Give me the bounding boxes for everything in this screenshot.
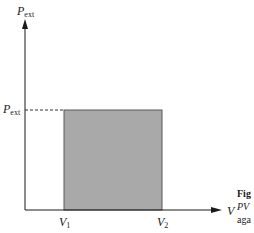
x-tick-label-v2: V2 [157,216,168,230]
x-tick-v1-subscript: 1 [66,221,70,230]
caption-line-1: Fig [237,188,251,200]
x-tick-label-v1: V1 [59,216,70,230]
caption-line-3: aga [237,214,251,226]
y-axis-label: Pext [17,5,34,19]
x-tick-v2-subscript: 2 [164,221,168,230]
y-tick-subscript: ext [10,108,20,117]
x-axis-symbol: V [227,204,234,218]
y-axis-subscript: ext [24,10,34,19]
x-axis-label: V [227,205,234,217]
y-axis-arrow-icon [22,19,28,29]
x-axis-arrow-icon [211,207,222,213]
work-area-rect [64,110,162,210]
caption-line-2: PV [237,201,249,213]
pv-diagram [0,0,254,233]
y-tick-label: Pext [3,103,20,117]
